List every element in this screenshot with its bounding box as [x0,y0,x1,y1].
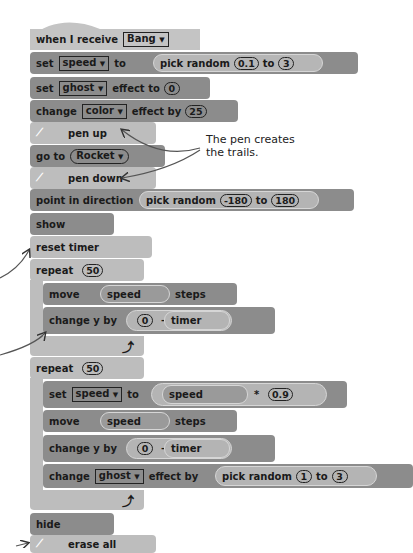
arrow-to-erase-all [16,543,28,546]
arrow-to-reset-timer [0,250,29,278]
arrow-to-pen-down [122,150,200,178]
arrow-to-change-y [0,333,45,355]
arrow-to-pen-up [122,130,200,151]
